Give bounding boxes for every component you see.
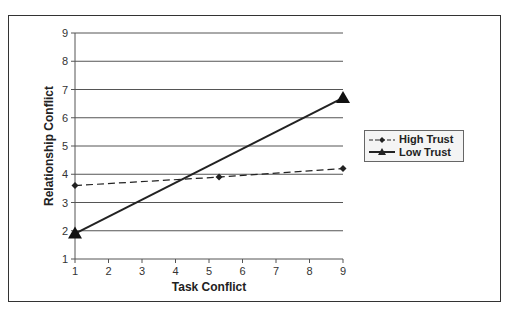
y-tick-label: 8 xyxy=(62,55,68,67)
y-tick-label: 4 xyxy=(62,168,68,180)
y-tick-label: 3 xyxy=(62,197,68,209)
diamond-marker-icon xyxy=(379,137,385,143)
y-tick-label: 1 xyxy=(62,253,68,265)
x-tick-label: 9 xyxy=(340,265,346,277)
series-line-high-trust xyxy=(75,169,343,186)
diamond-marker-icon xyxy=(72,182,79,189)
triangle-marker-icon xyxy=(68,227,82,239)
diamond-marker-icon xyxy=(340,165,347,172)
y-tick-label: 5 xyxy=(62,140,68,152)
x-tick-label: 7 xyxy=(273,265,279,277)
y-tick-label: 9 xyxy=(62,27,68,39)
x-axis-title: Task Conflict xyxy=(172,280,246,294)
triangle-marker-icon xyxy=(336,91,350,103)
x-tick-label: 5 xyxy=(206,265,212,277)
x-tick-label: 2 xyxy=(105,265,111,277)
x-tick-label: 4 xyxy=(172,265,178,277)
y-tick-label: 6 xyxy=(62,112,68,124)
y-tick-label: 7 xyxy=(62,84,68,96)
x-tick-label: 3 xyxy=(139,265,145,277)
x-tick-label: 8 xyxy=(306,265,312,277)
legend-high-trust: High Trust xyxy=(399,133,453,145)
legend-markers xyxy=(365,131,399,161)
legend-low-trust: Low Trust xyxy=(399,146,451,158)
chart-legend: High Trust Low Trust xyxy=(364,130,464,162)
y-axis-title: Relationship Conflict xyxy=(42,86,56,206)
x-tick-label: 6 xyxy=(239,265,245,277)
y-tick-label: 2 xyxy=(62,225,68,237)
x-tick-label: 1 xyxy=(72,265,78,277)
series-line-low-trust xyxy=(75,98,343,234)
